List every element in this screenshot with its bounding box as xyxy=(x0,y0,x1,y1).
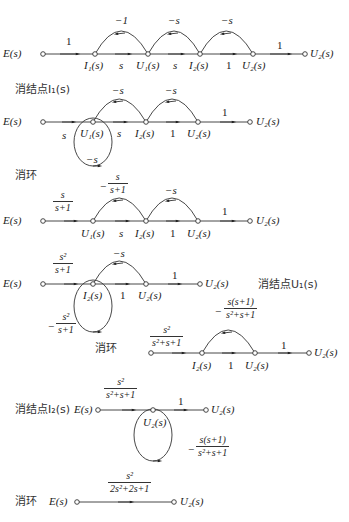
g1-gain: 1 xyxy=(66,36,72,47)
g3-node-out: U₂(s) xyxy=(256,215,279,226)
g5-fb-fraction: s(s+1)s²+s+1 xyxy=(224,297,257,320)
g3-gain-fraction: ss+1 xyxy=(53,190,73,213)
g2-self-loop-gain: −s xyxy=(86,154,98,165)
g4-node-out: U₂(s) xyxy=(205,278,228,289)
g6-gain: 1 xyxy=(178,396,184,407)
g1-gain: s xyxy=(173,60,177,71)
g3-gain: 1 xyxy=(170,228,176,239)
g2-node-out: U₂(s) xyxy=(256,116,279,127)
g2-fb-gain: −s xyxy=(165,85,177,96)
g6-self-sign: − xyxy=(188,443,194,455)
g1-node-I1: I₁(s) xyxy=(84,60,103,71)
g1-feedback-1 xyxy=(95,31,148,54)
g7-node-out: U₂(s) xyxy=(180,496,203,507)
g5-gain: 1 xyxy=(281,340,287,351)
g3-node-U1: U₁(s) xyxy=(81,228,104,239)
g3-node-U2: U₂(s) xyxy=(187,228,210,239)
g3-fb-sign: − xyxy=(100,180,106,192)
g2-fb-gain: −s xyxy=(112,85,124,96)
g3-fb-gain: −s xyxy=(165,185,177,196)
g5-node-out: U₂(s) xyxy=(314,347,337,358)
g6-gain-fraction: s²s²+s+1 xyxy=(104,377,137,400)
g4-gain-fraction: s²s+1 xyxy=(53,252,73,275)
step-title: 消环 xyxy=(15,496,37,507)
g4-gain: 1 xyxy=(120,290,126,301)
g3-node-E: E(s) xyxy=(3,215,21,226)
g1-fb-gain: −s xyxy=(168,15,180,26)
g2-gain: s xyxy=(117,128,121,139)
g5-gain: 1 xyxy=(228,360,234,371)
g3-node-I2: I₂(s) xyxy=(135,228,154,239)
g1-node-E: E(s) xyxy=(3,48,21,59)
g5-node-I2: I₂(s) xyxy=(192,360,211,371)
g5-gain-fraction: s²s²+s+1 xyxy=(150,325,183,348)
g1-node-U1: U₁(s) xyxy=(136,60,159,71)
g1-fb-gain: −s xyxy=(221,15,233,26)
g4-fb-gain: −s xyxy=(113,248,125,259)
g4-self-sign: − xyxy=(48,320,54,332)
step-title: 消结点U₁(s) xyxy=(258,279,318,290)
g2-gain: 1 xyxy=(222,107,228,118)
g4-node-I2: I₂(s) xyxy=(83,290,102,301)
g5-fb-sign: − xyxy=(215,305,221,317)
g1-feedback-3 xyxy=(200,31,253,54)
g2-node-U1: U₁(s) xyxy=(80,128,103,139)
g1-gain: 1 xyxy=(226,60,232,71)
g2-gain: 1 xyxy=(170,128,176,139)
g1-feedback-2 xyxy=(148,31,200,54)
g1-node-U2: U₂(s) xyxy=(242,60,265,71)
g3-fb-fraction: ss+1 xyxy=(108,172,128,195)
step-title: 消环 xyxy=(95,343,117,354)
g6-node-out: U₂(s) xyxy=(211,404,234,415)
g4-node-E: E(s) xyxy=(3,278,21,289)
g4-node-U2: U₂(s) xyxy=(138,290,161,301)
g6-node-U2: U₂(s) xyxy=(143,417,166,428)
g7-node-E: E(s) xyxy=(49,496,67,507)
g4-gain: 1 xyxy=(172,270,178,281)
g5-node-U2: U₂(s) xyxy=(245,360,268,371)
step-title: 消环 xyxy=(15,170,37,181)
g2-gain: s xyxy=(62,130,66,141)
step-title: 消结点I₁(s) xyxy=(15,84,70,95)
g3-gain: 1 xyxy=(222,206,228,217)
g3-gain: s xyxy=(119,228,123,239)
g2-node-I2: I₂(s) xyxy=(135,128,154,139)
g1-fb-gain: −1 xyxy=(115,15,128,26)
g7-gain-fraction: s²2s²+2s+1 xyxy=(108,471,151,494)
g6-node-E: E(s) xyxy=(74,404,92,415)
step-title: 消结点I₂(s) xyxy=(15,404,70,415)
g1-gain: 1 xyxy=(277,40,283,51)
g6-self-loop-fraction: s(s+1)s²+s+1 xyxy=(196,435,229,458)
g1-gain: s xyxy=(119,60,123,71)
g2-node-E: E(s) xyxy=(3,116,21,127)
g1-node-out: U₂(s) xyxy=(310,48,333,59)
g1-node-I2: I₂(s) xyxy=(189,60,208,71)
g2-node-U2: U₂(s) xyxy=(187,128,210,139)
g4-self-loop-fraction: s²s+1 xyxy=(56,312,76,335)
